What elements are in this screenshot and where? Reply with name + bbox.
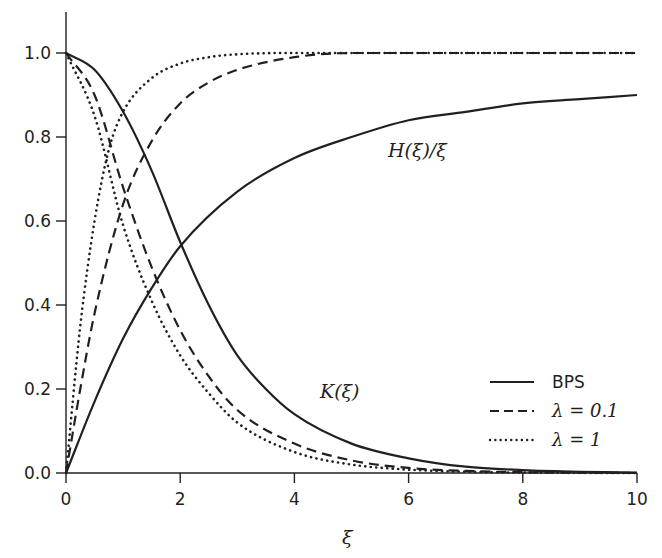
- x-tick-label: 0: [61, 489, 72, 509]
- line-chart: 0.00.20.40.60.81.00246810 H(ξ)/ξ K(ξ) ξ …: [0, 0, 662, 558]
- y-tick-label: 0.0: [24, 463, 51, 483]
- x-tick-label: 2: [175, 489, 186, 509]
- legend: BPS λ = 0.1 λ = 1: [490, 372, 619, 450]
- x-tick-label: 6: [403, 489, 414, 509]
- legend-item-bps: BPS: [552, 372, 585, 392]
- x-axis-label: ξ: [342, 526, 354, 548]
- y-tick-label: 1.0: [24, 43, 51, 63]
- x-tick-label: 8: [517, 489, 528, 509]
- y-tick-label: 0.6: [24, 211, 51, 231]
- legend-item-lambda-0-1: λ = 0.1: [551, 400, 619, 421]
- y-tick-label: 0.8: [24, 127, 51, 147]
- legend-item-lambda-1: λ = 1: [551, 429, 601, 450]
- y-tick-label: 0.4: [24, 295, 51, 315]
- annotations: H(ξ)/ξ K(ξ) ξ: [319, 139, 448, 548]
- x-tick-label: 4: [289, 489, 300, 509]
- y-tick-label: 0.2: [24, 379, 51, 399]
- h-curve-label: H(ξ)/ξ: [387, 139, 448, 161]
- k-curve-label: K(ξ): [319, 380, 359, 402]
- x-tick-label: 10: [626, 489, 648, 509]
